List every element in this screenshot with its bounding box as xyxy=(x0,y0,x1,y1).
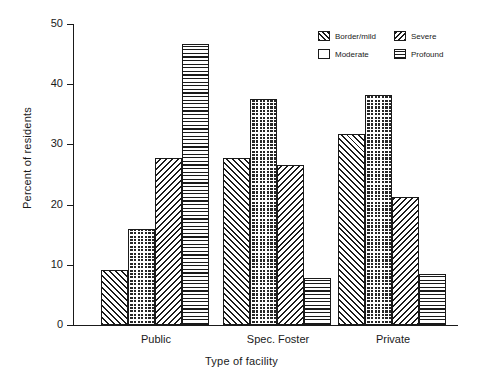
bar-public-severe[interactable] xyxy=(155,158,182,325)
bar-spec-foster-border-mild[interactable] xyxy=(223,158,250,325)
bar-spec-foster-profound[interactable] xyxy=(304,278,331,325)
bar-group-private xyxy=(338,24,448,325)
x-axis-category-label-spec-foster: Spec. Foster xyxy=(247,333,309,345)
y-axis-tick: 20 xyxy=(67,205,73,206)
legend-entry-border-mild[interactable]: Border/mild xyxy=(318,31,394,41)
bar-public-moderate[interactable] xyxy=(128,229,155,325)
legend-swatch-profound-icon xyxy=(394,49,406,59)
legend-row: Moderate Profound xyxy=(318,45,470,63)
bar-private-profound[interactable] xyxy=(419,274,446,325)
y-axis-tick-label: 50 xyxy=(51,17,63,29)
bar-spec-foster-moderate[interactable] xyxy=(250,99,277,325)
legend-entry-moderate[interactable]: Moderate xyxy=(318,49,394,59)
y-axis-tick-label: 20 xyxy=(51,198,63,210)
bar-group-public xyxy=(101,24,211,325)
x-axis-category-label-private: Private xyxy=(376,333,410,345)
y-axis-tick-label: 10 xyxy=(51,258,63,270)
x-axis-line xyxy=(73,325,458,326)
bar-private-border-mild[interactable] xyxy=(338,134,365,325)
y-axis-line xyxy=(73,24,74,325)
legend-entry-severe[interactable]: Severe xyxy=(394,31,436,41)
bar-group-spec-foster xyxy=(223,24,333,325)
x-axis-title: Type of facility xyxy=(0,355,483,367)
y-axis-tick-label: 0 xyxy=(57,318,63,330)
bar-private-moderate[interactable] xyxy=(365,95,392,325)
legend-row: Border/mild Severe xyxy=(318,27,470,45)
y-axis-tick: 0 xyxy=(67,325,73,326)
bar-public-profound[interactable] xyxy=(182,44,209,325)
legend-label-severe: Severe xyxy=(411,32,436,41)
legend-label-moderate: Moderate xyxy=(335,50,369,59)
legend-swatch-severe-icon xyxy=(394,31,406,41)
legend-label-border-mild: Border/mild xyxy=(335,32,376,41)
bar-chart-figure: Percent of residents 50 40 30 20 10 0 xyxy=(0,0,483,380)
bar-private-severe[interactable] xyxy=(392,197,419,325)
legend-entry-profound[interactable]: Profound xyxy=(394,49,443,59)
plot-area: 50 40 30 20 10 0 xyxy=(73,24,458,325)
y-axis-title: Percent of residents xyxy=(21,78,33,238)
y-axis-tick-label: 40 xyxy=(51,77,63,89)
chart-legend: Border/mild Severe Moderate Profound xyxy=(318,27,470,63)
legend-swatch-moderate-icon xyxy=(318,49,330,59)
y-axis-tick: 10 xyxy=(67,265,73,266)
x-axis-category-label-public: Public xyxy=(141,333,171,345)
legend-label-profound: Profound xyxy=(411,50,443,59)
y-axis-tick-label: 30 xyxy=(51,137,63,149)
bar-spec-foster-severe[interactable] xyxy=(277,165,304,325)
y-axis-tick: 50 xyxy=(67,24,73,25)
y-axis-tick: 30 xyxy=(67,144,73,145)
bar-public-border-mild[interactable] xyxy=(101,270,128,325)
y-axis-tick: 40 xyxy=(67,84,73,85)
legend-swatch-border-mild-icon xyxy=(318,31,330,41)
